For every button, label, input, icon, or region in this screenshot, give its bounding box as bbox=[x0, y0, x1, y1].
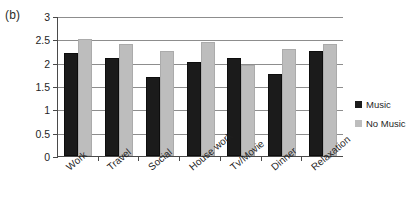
x-axis-tick bbox=[138, 156, 139, 161]
x-axis-tick bbox=[179, 156, 180, 161]
y-axis-tick bbox=[53, 157, 58, 158]
y-axis-label: 3 bbox=[44, 11, 50, 23]
chart-figure: (b) 00.511.522.53 WorkTravelSocialHouse … bbox=[0, 0, 416, 214]
bar-group bbox=[262, 17, 303, 156]
bar-no-music-house-work bbox=[201, 42, 215, 156]
bar-group bbox=[302, 17, 343, 156]
y-axis-label: 2.5 bbox=[35, 34, 50, 46]
bar-group bbox=[99, 17, 140, 156]
bar-music-dinner bbox=[268, 74, 282, 156]
legend-item: Music bbox=[355, 100, 415, 110]
y-axis-label: 1 bbox=[44, 104, 50, 116]
legend-swatch-music bbox=[355, 101, 362, 108]
bar-music-relaxation bbox=[309, 51, 323, 156]
bar-no-music-relaxation bbox=[323, 44, 337, 156]
plot-area: 00.511.522.53 bbox=[57, 17, 343, 157]
bar-no-music-travel bbox=[119, 44, 133, 156]
bar-group bbox=[180, 17, 221, 156]
bar-no-music-social bbox=[160, 51, 174, 156]
y-axis-label: 0 bbox=[44, 151, 50, 163]
bar-music-work bbox=[64, 53, 78, 156]
bar-music-house-work bbox=[187, 62, 201, 156]
x-axis-tick bbox=[98, 156, 99, 161]
x-axis-labels: WorkTravelSocialHouse workTv/MovieDinner… bbox=[57, 162, 343, 212]
bar-music-travel bbox=[105, 58, 119, 156]
bar-music-social bbox=[146, 77, 160, 156]
legend-label: Music bbox=[366, 100, 391, 110]
chart-legend: MusicNo Music bbox=[355, 100, 415, 137]
y-axis-label: 1.5 bbox=[35, 81, 50, 93]
y-axis-label: 0.5 bbox=[35, 128, 50, 140]
bar-group bbox=[58, 17, 99, 156]
legend-label: No Music bbox=[366, 119, 406, 129]
legend-swatch-no-music bbox=[355, 120, 362, 127]
bar-group bbox=[139, 17, 180, 156]
x-axis-tick bbox=[261, 156, 262, 161]
bar-no-music-dinner bbox=[282, 49, 296, 156]
y-axis-label: 2 bbox=[44, 58, 50, 70]
x-axis-tick bbox=[220, 156, 221, 161]
bar-groups bbox=[58, 17, 343, 156]
panel-label: (b) bbox=[5, 8, 20, 22]
bar-no-music-work bbox=[78, 39, 92, 156]
x-axis-tick bbox=[301, 156, 302, 161]
legend-item: No Music bbox=[355, 119, 415, 129]
